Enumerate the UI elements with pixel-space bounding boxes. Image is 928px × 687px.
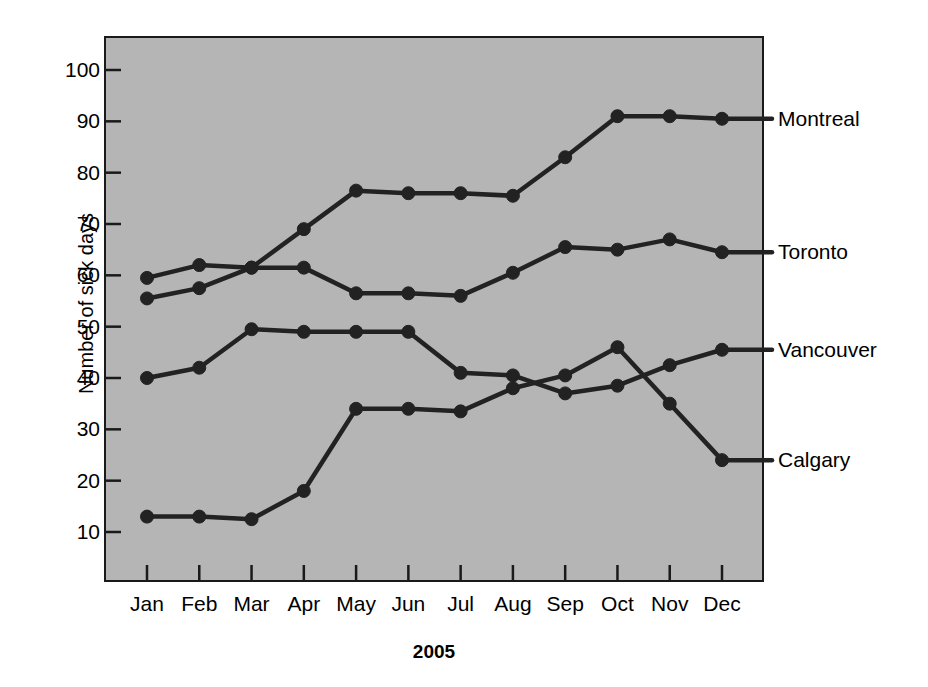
x-tick-label: Dec	[682, 592, 762, 616]
plot-area	[104, 36, 764, 582]
x-axis-title: 2005	[104, 641, 764, 663]
sick-days-line-chart: 102030405060708090100 Number of sick day…	[0, 0, 928, 687]
y-axis-title: Number of sick days	[75, 154, 98, 454]
series-label-vancouver: Vancouver	[778, 339, 877, 360]
series-label-montreal: Montreal	[778, 108, 860, 129]
y-tick-label: 100	[52, 59, 100, 80]
y-tick-label: 90	[52, 110, 100, 131]
y-tick-label: 10	[52, 521, 100, 542]
y-tick-label: 20	[52, 470, 100, 491]
series-label-toronto: Toronto	[778, 241, 848, 262]
x-axis-tick-labels: JanFebMarAprMayJunJulAugSepOctNovDec	[0, 592, 928, 626]
series-label-calgary: Calgary	[778, 449, 850, 470]
